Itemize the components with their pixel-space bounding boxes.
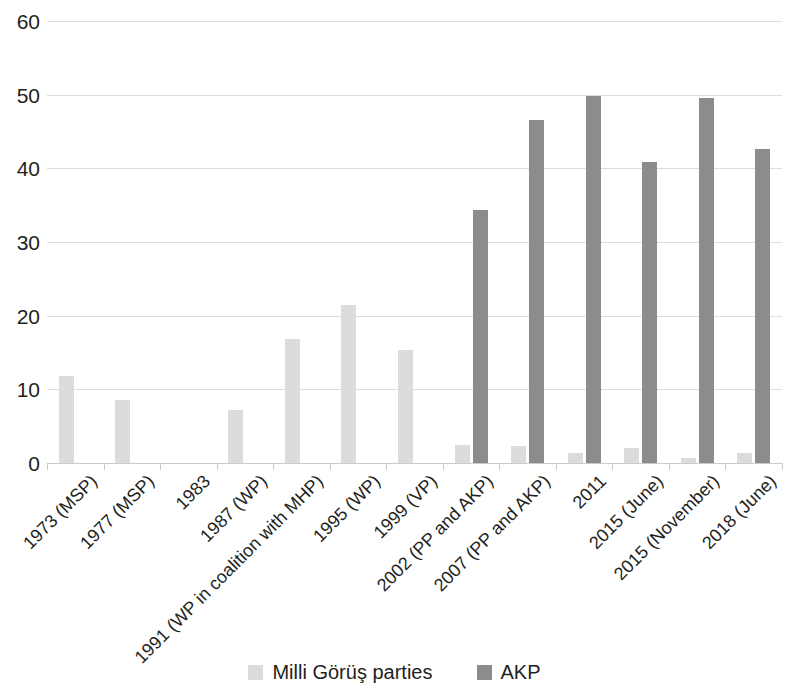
bar-group bbox=[725, 21, 782, 463]
bar-group bbox=[612, 21, 669, 463]
legend-swatch-icon bbox=[248, 665, 263, 680]
bar-group bbox=[443, 21, 500, 463]
x-axis-label: 2011 bbox=[569, 471, 611, 513]
bar bbox=[59, 376, 74, 463]
bar-group bbox=[386, 21, 443, 463]
bar-group bbox=[499, 21, 556, 463]
bar bbox=[699, 98, 714, 463]
bar bbox=[341, 305, 356, 463]
y-tick-label: 10 bbox=[0, 379, 40, 400]
y-tick-label: 60 bbox=[0, 11, 40, 32]
bar bbox=[568, 453, 583, 463]
bar bbox=[285, 339, 300, 463]
y-tick-label: 30 bbox=[0, 232, 40, 253]
bar bbox=[737, 453, 752, 463]
x-axis-label: 1983 bbox=[172, 471, 214, 513]
bar bbox=[398, 350, 413, 463]
bar-group bbox=[47, 21, 104, 463]
bar-group bbox=[160, 21, 217, 463]
bar-chart: 6050403020100 1973 (MSP)1977 (MSP)198319… bbox=[0, 0, 789, 696]
bar bbox=[455, 445, 470, 463]
bar-group bbox=[217, 21, 274, 463]
bar bbox=[511, 446, 526, 463]
x-axis-labels: 1973 (MSP)1977 (MSP)19831987 (WP)1991 (W… bbox=[0, 463, 789, 643]
legend-swatch-icon bbox=[477, 665, 492, 680]
legend-label: Milli Görüş parties bbox=[272, 662, 432, 682]
bar-group bbox=[273, 21, 330, 463]
y-tick-label: 50 bbox=[0, 85, 40, 106]
y-tick-label: 20 bbox=[0, 306, 40, 327]
bar-group bbox=[330, 21, 387, 463]
legend-label: AKP bbox=[501, 662, 541, 682]
y-tick-label: 40 bbox=[0, 158, 40, 179]
bar bbox=[473, 210, 488, 463]
bar bbox=[624, 448, 639, 463]
x-axis-label: 2015 (November) bbox=[610, 471, 723, 584]
bar bbox=[115, 400, 130, 463]
bar-group bbox=[556, 21, 613, 463]
plot-area bbox=[47, 21, 782, 463]
legend-item[interactable]: AKP bbox=[477, 662, 541, 682]
bar bbox=[529, 120, 544, 463]
bar-group bbox=[104, 21, 161, 463]
bar bbox=[755, 149, 770, 463]
legend-item[interactable]: Milli Görüş parties bbox=[248, 662, 432, 682]
bar bbox=[228, 410, 243, 463]
bar bbox=[642, 162, 657, 463]
chart-legend: Milli Görüş partiesAKP bbox=[0, 657, 789, 687]
bar bbox=[586, 96, 601, 463]
bar-group bbox=[669, 21, 726, 463]
